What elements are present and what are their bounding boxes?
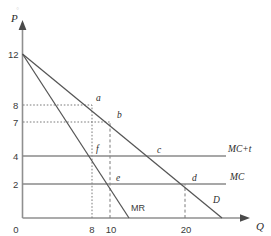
x-axis-arrow: [240, 214, 250, 222]
point-label-d: d: [192, 173, 197, 183]
x-tick-labels-group: 0 8 10 20: [13, 224, 191, 235]
guide-lines-group: [23, 105, 185, 218]
chart-canvas: °: [0, 0, 271, 236]
point-label-e: e: [116, 173, 120, 183]
x-tick-0: 0: [13, 224, 18, 235]
curve-label-demand: D: [212, 195, 220, 205]
x-tick-10: 10: [106, 224, 117, 235]
x-axis-label: Q: [256, 220, 264, 232]
y-tick-8: 8: [13, 100, 18, 111]
x-tick-20: 20: [181, 224, 192, 235]
revenue-curves-group: [23, 54, 223, 218]
y-axis-label: P: [10, 12, 18, 24]
curve-label-mc: MC: [229, 172, 245, 182]
demand-curve: [23, 54, 223, 218]
y-axis-arrow: [19, 20, 27, 30]
y-tick-2: 2: [13, 179, 18, 190]
point-labels-group: a b c d e f: [96, 93, 197, 183]
y-tick-labels-group: 12 8 7 4 2: [8, 49, 19, 190]
economics-diagram: °: [0, 0, 271, 236]
y-tick-7: 7: [13, 117, 18, 128]
curve-label-marginal-revenue: MR: [131, 203, 145, 213]
point-label-f: f: [96, 144, 100, 154]
point-label-a: a: [96, 93, 101, 103]
x-tick-8: 8: [89, 224, 94, 235]
y-tick-12: 12: [8, 49, 19, 60]
marginal-revenue-curve: [23, 54, 130, 218]
point-label-b: b: [117, 110, 122, 120]
y-tick-4: 4: [13, 151, 18, 162]
axes-group: [19, 20, 250, 222]
curve-label-mc-plus-tax: MC+t: [227, 144, 252, 154]
point-label-c: c: [157, 145, 162, 155]
